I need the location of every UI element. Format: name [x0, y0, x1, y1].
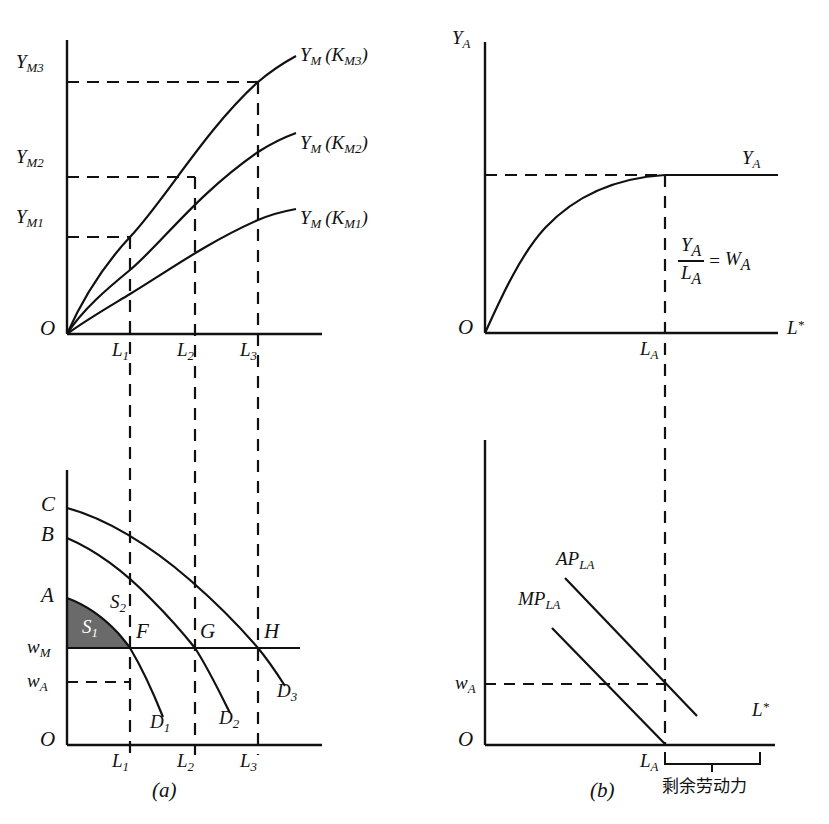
- bl-xtick-l1: L1: [112, 751, 129, 774]
- curve-ya: [485, 175, 665, 333]
- tr-x-axis-label: L*: [787, 318, 804, 337]
- panel-tag-a: (a): [152, 778, 177, 803]
- tl-ytick-ym2: YM2: [16, 147, 44, 170]
- curve-label-ym-km1: YM (KM1): [300, 208, 368, 231]
- ratio-result: WA: [725, 248, 751, 274]
- tl-origin: O: [40, 318, 55, 339]
- wage-ratio-formula: YA LA = WA: [678, 235, 750, 287]
- bl-xtick-l3: L3: [240, 751, 257, 774]
- curve-label-d1: D1: [150, 712, 170, 735]
- economics-figure: YM3 YM2 YM1 O L1 L2 L3 YM (KM3) YM (KM2)…: [0, 0, 829, 824]
- bl-point-c: C: [41, 494, 55, 515]
- br-origin: O: [458, 729, 473, 750]
- bl-xtick-l2: L2: [177, 751, 194, 774]
- surplus-labour-bracket: [665, 752, 760, 764]
- bl-origin: O: [40, 729, 55, 750]
- bl-point-f: F: [136, 621, 149, 642]
- surplus-labour-label: 剩余劳动力: [662, 778, 747, 795]
- tr-curve-label-ya: YA: [742, 148, 760, 171]
- curve-d3: [67, 508, 285, 686]
- panel-top-right: [485, 42, 778, 745]
- region-label-s1: S1: [82, 617, 98, 640]
- tr-xtick-la: LA: [640, 339, 658, 362]
- tl-ytick-ym1: YM1: [16, 207, 44, 230]
- tl-xtick-l2: L2: [177, 340, 194, 363]
- figure-canvas: [0, 0, 829, 824]
- curve-ym-km2: [67, 133, 296, 334]
- curve-label-d2: D2: [219, 708, 239, 731]
- br-xtick-la: LA: [640, 751, 658, 774]
- br-ytick-wa: wA: [455, 673, 476, 696]
- bl-point-g: G: [200, 621, 215, 642]
- curve-ap-la: [565, 578, 697, 716]
- bl-point-a: A: [41, 585, 54, 606]
- curve-label-ap-la: APLA: [556, 549, 594, 572]
- curve-label-mp-la: MPLA: [518, 589, 561, 612]
- bl-ytick-wm: wM: [27, 637, 50, 660]
- ratio-numerator: YA: [678, 235, 704, 260]
- tl-ytick-ym3: YM3: [16, 52, 44, 75]
- curve-label-d3: D3: [277, 681, 297, 704]
- bl-point-h: H: [264, 621, 279, 642]
- tl-xtick-l1: L1: [112, 340, 129, 363]
- tr-y-axis-label: YA: [452, 28, 470, 51]
- curve-label-ym-km2: YM (KM2): [300, 133, 368, 156]
- curve-label-ym-km3: YM (KM3): [300, 45, 368, 68]
- region-label-s2: S2: [110, 592, 126, 615]
- ratio-denominator: LA: [678, 262, 704, 287]
- curve-mp-la: [552, 628, 665, 744]
- tl-xtick-l3: L3: [240, 340, 257, 363]
- bl-ytick-wa: wA: [27, 671, 48, 694]
- ratio-equals: =: [704, 250, 725, 272]
- panel-tag-b: (b): [590, 778, 615, 803]
- bl-point-b: B: [41, 524, 54, 545]
- br-x-axis-label: L*: [752, 700, 769, 719]
- curve-ym-km3: [67, 56, 296, 334]
- tr-origin: O: [458, 317, 473, 338]
